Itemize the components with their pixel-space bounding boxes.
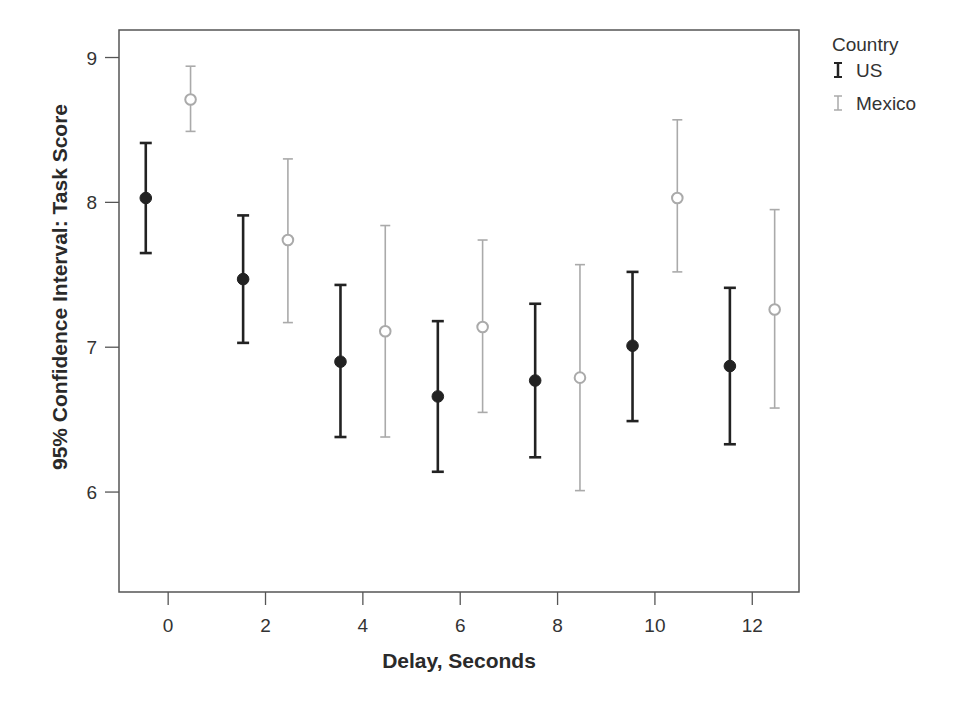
mean-marker	[432, 391, 444, 403]
mean-marker	[477, 322, 488, 333]
mean-marker	[529, 375, 541, 387]
y-tick-label: 7	[86, 337, 97, 358]
mean-marker	[185, 94, 196, 105]
mean-marker	[283, 235, 294, 246]
legend-item-mexico: Mexico	[834, 93, 916, 114]
x-axis-title: Delay, Seconds	[382, 649, 536, 672]
mean-marker	[380, 326, 391, 337]
legend-label-mexico: Mexico	[856, 93, 916, 114]
x-tick-label: 0	[163, 615, 174, 636]
y-axis: 6789	[86, 48, 119, 504]
mean-marker	[769, 304, 780, 315]
y-tick-label: 8	[86, 192, 97, 213]
x-axis: 024681012	[163, 592, 763, 636]
x-tick-label: 8	[552, 615, 563, 636]
mean-marker	[140, 192, 152, 204]
y-axis-title: 95% Confidence Interval: Task Score	[48, 104, 71, 470]
legend-title: Country	[832, 34, 899, 55]
x-tick-label: 12	[742, 615, 763, 636]
legend-us-errorbar-icon	[834, 63, 842, 77]
mean-marker	[335, 356, 347, 368]
x-tick-label: 10	[644, 615, 665, 636]
mean-marker	[672, 193, 683, 204]
x-tick-label: 2	[260, 615, 271, 636]
mean-marker	[724, 360, 736, 372]
mean-marker	[237, 273, 249, 285]
legend: Country US Mexico	[832, 34, 916, 114]
error-bar-chart: 6789 024681012 Delay, Seconds 95% Confid…	[0, 0, 970, 709]
y-tick-label: 6	[86, 482, 97, 503]
legend-label-us: US	[856, 60, 882, 81]
x-tick-label: 6	[455, 615, 466, 636]
mean-marker	[627, 340, 639, 352]
x-tick-label: 4	[358, 615, 369, 636]
mean-marker	[575, 372, 586, 383]
y-tick-label: 9	[86, 48, 97, 69]
plot-area	[119, 30, 799, 592]
legend-item-us: US	[834, 60, 882, 81]
legend-mexico-errorbar-icon	[834, 96, 842, 110]
